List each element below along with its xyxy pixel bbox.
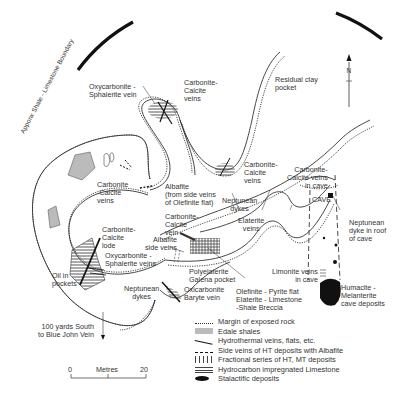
- label-albafite-side-veins: Albafiteside veins: [145, 236, 177, 252]
- north-label: N: [347, 67, 352, 74]
- label-carbonite-calcite-veins-left: Carbonite-Calciteveins: [97, 181, 128, 205]
- label-olefinite: Olefinite - Pyrite flatElaterite - Limes…: [236, 288, 302, 312]
- legend-item-hydrothermal: Hydrothermal veins, flats, etc.: [195, 336, 343, 346]
- legend-item-side-veins: Side veins of HT deposits with Albafite: [195, 346, 343, 356]
- label-neptunean-dykes-low: Neptuneandykes: [124, 285, 159, 301]
- grey-fill-icon: [195, 328, 213, 334]
- north-arrow: [346, 54, 352, 107]
- legend-item-fractional: Fractional series of HT, MT deposits: [195, 355, 343, 365]
- boundary-label: Apponx Shale - Limestone Boundary: [19, 37, 76, 135]
- label-south-note: 100 yards Southto Blue John Vein: [38, 323, 94, 339]
- dotted-margin-icon: [195, 319, 213, 324]
- horizontal-hatch-icon: [195, 366, 213, 373]
- legend-item-stalactitic: Stalactific deposits: [195, 374, 343, 384]
- label-carbonite-calcite-veins-mid: Carbonite-Calciteveins: [244, 161, 278, 185]
- label-oil-in-pockets: Oil inpockets: [52, 272, 77, 288]
- black-blob-icon: [195, 376, 209, 381]
- scale-unit: Metres: [96, 366, 118, 374]
- label-carbonite-calcite-vein: Carbonite-Calcitevein: [165, 213, 199, 237]
- dashed-line-icon: [195, 348, 213, 353]
- solid-line-icon: [195, 336, 214, 345]
- label-carbonite-calcite-lode: Carbonite-Calcitelode: [102, 226, 136, 250]
- stalactitic-deposit: [320, 279, 341, 306]
- label-carbonite-calcite-cave: Carbonite-Calcite veinsin cave: [287, 166, 328, 190]
- label-oxycarbonite-sphalerite-vein: Oxycarbonite -Sphalerite vein: [89, 83, 137, 99]
- label-neptunean-dykes-mid: Neptuneandykes: [222, 197, 257, 213]
- label-humacite: Humacite -Melanteritecave deposits: [341, 284, 385, 308]
- vertical-bars-icon: [195, 356, 213, 363]
- label-cave: CAVE: [312, 196, 331, 204]
- legend-item-hydrocarbon: Hydrocarbon impregnated Limestone: [195, 365, 343, 375]
- label-oxicarbonite-baryte: OxicarboniteBaryte vein: [184, 286, 224, 302]
- scale-end: 20: [140, 366, 148, 374]
- label-limonite: Limonite veinsin cave: [272, 268, 318, 284]
- label-elaterite-veins: Elateriteveins: [238, 217, 264, 233]
- boundary-line-right: [336, 13, 382, 39]
- label-neptunean-dyke-roof: Neptuneandyke in roofof cave: [349, 219, 386, 243]
- legend-item-margin: Margin of exposed rock: [195, 317, 343, 327]
- label-albafite: Albafite(from side veinsof Olefinite fla…: [165, 183, 216, 207]
- legend-item-edale: Edale shales: [195, 327, 343, 337]
- shale-limestone-boundary: [78, 22, 133, 70]
- label-oxycarbonite-sphalerite-veins: Oxycarbonite -Sphalerite veins: [105, 252, 156, 268]
- label-residual-clay: Residual claypocket: [275, 76, 318, 92]
- label-polyelaterite: PolyelateriteGalena pocket: [189, 268, 235, 284]
- scale-bar: [71, 374, 146, 378]
- edale-shale-patch: [68, 152, 95, 180]
- scale-start: 0: [68, 366, 72, 374]
- label-carbonite-calcite-veins-top: Carbonite-Calciteveins: [184, 79, 218, 103]
- legend: Margin of exposed rock Edale shales Hydr…: [195, 317, 343, 384]
